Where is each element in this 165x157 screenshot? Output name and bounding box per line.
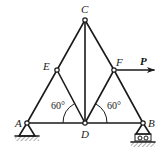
node-E <box>55 68 59 72</box>
label-F: F <box>115 56 123 68</box>
label-E: E <box>42 60 50 72</box>
member-AE <box>27 70 57 123</box>
member-FB <box>114 70 143 123</box>
member-EC <box>57 20 85 70</box>
label-C: C <box>81 3 89 15</box>
label-B: B <box>148 117 155 129</box>
label-P: P <box>140 55 147 67</box>
node-D <box>83 121 87 125</box>
member-ED <box>57 70 85 123</box>
label-A: A <box>14 117 22 129</box>
angle-label-right: 60° <box>107 100 121 111</box>
node-B <box>141 121 145 125</box>
member-DF <box>85 70 114 123</box>
member-CF <box>85 20 114 70</box>
truss-diagram: C E F P A B D 60° 60° <box>0 0 165 157</box>
node-C <box>83 18 87 22</box>
node-A <box>25 121 29 125</box>
label-D: D <box>80 128 89 140</box>
angle-arc-right <box>96 104 107 123</box>
node-F <box>112 68 116 72</box>
angle-label-left: 60° <box>51 100 65 111</box>
